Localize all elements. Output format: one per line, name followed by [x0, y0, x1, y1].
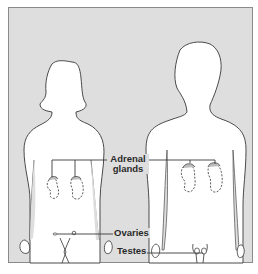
adrenal-glands-label: Adrenal glands — [107, 154, 149, 174]
ovaries-label: Ovaries — [113, 228, 150, 238]
diagram-canvas: Adrenal glands Ovaries Testes — [0, 0, 258, 274]
male-right-hand — [237, 245, 244, 258]
adrenal-label-line2: glands — [108, 164, 148, 174]
male-left-hand — [152, 244, 160, 258]
female-left-hand — [20, 240, 30, 253]
female-left-ovary — [53, 233, 57, 235]
testes-label: Testes — [116, 246, 147, 256]
female-right-hand — [104, 241, 112, 254]
